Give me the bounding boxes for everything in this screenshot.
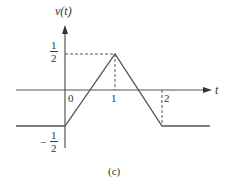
tick-label-t1: 1	[111, 93, 117, 104]
fraction-denominator: 2	[50, 142, 58, 154]
figure-caption: (c)	[108, 166, 120, 177]
y-axis-arrow-icon	[62, 25, 68, 34]
v-positive-half-label: 1 2	[50, 40, 58, 64]
tick-label-t0: 0	[68, 93, 74, 104]
x-axis-label: t	[215, 84, 218, 96]
v-negative-sign: −	[40, 137, 46, 148]
fraction-numerator: 1	[50, 130, 58, 142]
fraction-numerator: 1	[50, 40, 58, 52]
tick-label-t2: 2	[164, 93, 170, 104]
y-axis-label: v(t)	[55, 5, 72, 17]
x-axis-arrow-icon	[203, 87, 212, 93]
v-negative-half-label: 1 2	[50, 130, 58, 154]
fraction-denominator: 2	[50, 52, 58, 64]
